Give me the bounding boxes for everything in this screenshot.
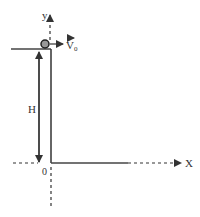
origin-label: 0 [42,166,47,177]
y-axis-label: y [42,9,48,21]
ball-icon [41,40,49,48]
diagram-canvas: y X H 0 V0 [0,0,200,217]
height-label: H [28,103,36,115]
x-axis-label: X [185,157,193,169]
diagram-svg: y X H 0 V0 [0,0,200,217]
velocity-label: V0 [66,39,78,53]
